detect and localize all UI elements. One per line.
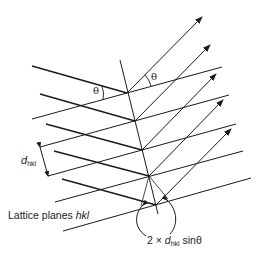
incident-ray (32, 66, 127, 93)
lattice-hkl: hkl (76, 209, 89, 221)
lattice-planes-label: Lattice planes hkl (8, 210, 89, 221)
theta-reflected-label: θ (151, 72, 157, 82)
theta-incident-arc (102, 86, 104, 100)
path-suffix: sinθ (180, 234, 202, 246)
path-difference-label: 2 × dhkl sinθ (147, 235, 202, 247)
reflected-ray (156, 129, 231, 205)
reflected-ray (127, 17, 202, 93)
lattice-prefix: Lattice planes (8, 209, 76, 221)
d-hkl-label: dhkl (21, 155, 36, 167)
path-prefix: 2 × (147, 234, 165, 246)
normal-line (120, 60, 158, 214)
theta-incident-label: θ (93, 86, 99, 96)
reflected-ray (135, 45, 210, 121)
path-subscript: hkl (171, 240, 180, 247)
d-spacing-bracket (40, 147, 48, 176)
reflected-rays (127, 17, 231, 205)
path-arc-right (167, 200, 176, 234)
incident-ray (46, 124, 142, 150)
d-subscript: hkl (27, 160, 36, 167)
incident-ray (40, 94, 135, 121)
incident-ray (54, 151, 149, 176)
reflected-ray (149, 100, 223, 176)
